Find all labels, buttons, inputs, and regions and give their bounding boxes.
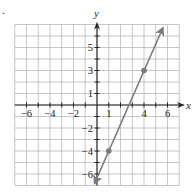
y-tick-label: −4 [82, 146, 94, 157]
x-tick-label: −2 [68, 108, 79, 119]
x-tick-label: −6 [21, 108, 32, 119]
graph-line [95, 28, 163, 183]
y-tick-label: 3 [88, 65, 93, 76]
x-tick-label: 4 [141, 108, 147, 119]
x-tick-label: 1 [106, 108, 111, 119]
marked-point [141, 68, 147, 74]
coordinate-plane: −6−4−2146531−2−4−6 x y [0, 0, 195, 193]
y-axis-label: y [93, 7, 99, 19]
y-tick-label: −6 [82, 169, 93, 180]
marked-point [106, 148, 112, 154]
x-tick-label: 6 [165, 108, 170, 119]
x-tick-label: −4 [44, 108, 56, 119]
y-tick-label: 5 [88, 42, 93, 53]
x-axis-label: x [185, 99, 191, 111]
y-tick-label: 1 [88, 88, 93, 99]
plotted-line [95, 28, 163, 183]
y-tick-label: −2 [82, 123, 93, 134]
